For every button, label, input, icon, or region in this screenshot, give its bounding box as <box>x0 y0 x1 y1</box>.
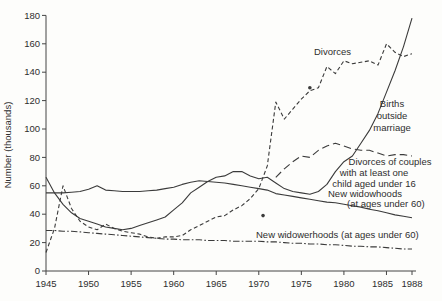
y-axis-tick-label: 140 <box>24 66 40 77</box>
y-axis-tick-label: 180 <box>24 10 40 21</box>
y-axis-tick-label: 120 <box>24 95 40 106</box>
y-axis-tick-label: 80 <box>29 152 40 163</box>
x-axis-tick-label: 1970 <box>248 278 269 289</box>
x-axis-tick-label: 1945 <box>35 278 56 289</box>
x-axis-tick-label: 1960 <box>163 278 184 289</box>
y-axis-tick-label: 100 <box>24 123 40 134</box>
x-axis-tick-label: 1965 <box>206 278 227 289</box>
series-annotation-label: Divorces of couples <box>349 156 432 167</box>
x-axis-tick-label: 1975 <box>291 278 312 289</box>
data-point-marker <box>308 86 312 90</box>
series-annotation-label: Divorces <box>314 46 351 57</box>
x-axis-tick-label: 1955 <box>121 278 142 289</box>
series-annotation-label: marriage <box>373 122 411 133</box>
y-axis-tick-label: 60 <box>29 180 40 191</box>
statistics-line-chart-figure: 0204060801001201401601801945195019551960… <box>0 0 442 301</box>
series-annotation-label: New widowerhoods (at ages under 60) <box>256 229 419 240</box>
series-annotation-label: (at ages under 60) <box>347 198 425 209</box>
y-axis-tick-label: 160 <box>24 38 40 49</box>
y-axis-title: Number (thousands) <box>2 102 13 189</box>
series-annotation-label: with at least one <box>339 167 409 178</box>
line-chart-canvas: 0204060801001201401601801945195019551960… <box>0 0 442 301</box>
x-axis-tick-label: 1980 <box>333 278 354 289</box>
y-axis-tick-label: 40 <box>29 208 40 219</box>
x-axis-tick-label: 1985 <box>372 278 393 289</box>
series-annotation-label: outside <box>377 110 408 121</box>
y-axis-tick-label: 0 <box>35 265 40 276</box>
data-point-marker <box>261 214 265 218</box>
x-axis-tick-label: 1950 <box>78 278 99 289</box>
x-axis-tick-label: 1988 <box>401 278 422 289</box>
y-axis-tick-label: 20 <box>29 237 40 248</box>
series-annotation-label: Births <box>380 98 405 109</box>
